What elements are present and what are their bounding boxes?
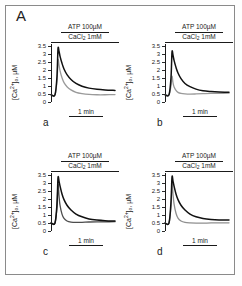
plot-area-a: 3.532.521.510.50: [51, 44, 115, 102]
stimulus-bars: ATP 100µM CaCl2 1mM: [55, 23, 115, 43]
y-tick-label: 1.5: [38, 204, 46, 210]
stimulus-bars: ATP 100µM CaCl2 1mM: [55, 152, 115, 172]
scale-bar: 1 min: [183, 237, 217, 246]
stimulus-atp: ATP 100µM: [169, 23, 229, 33]
y-tick-label: 3: [157, 180, 160, 186]
y-axis-label: [Ca2+]o, µM: [122, 117, 134, 173]
stimulus-cacl2: CaCl2 1mM: [169, 162, 229, 172]
panel-d: ATP 100µM CaCl2 1mM [Ca2+]o, µM 3.532.52…: [121, 143, 235, 272]
scale-bar-label: 1 min: [183, 108, 217, 116]
stimulus-atp: ATP 100µM: [169, 152, 229, 162]
scale-bar-line: [183, 116, 217, 117]
stimulus-cacl2-line: [165, 42, 233, 43]
stimulus-cacl2-label: CaCl2 1mM: [169, 162, 229, 171]
y-axis-label: [Ca2+]o, µM: [8, 117, 20, 173]
stimulus-atp-label: ATP 100µM: [55, 152, 115, 160]
y-tick-label: 1.5: [38, 75, 46, 81]
stimulus-atp-label: ATP 100µM: [169, 23, 229, 31]
stimulus-cacl2-line: [51, 171, 119, 172]
y-tick-label: 1.5: [152, 75, 160, 81]
plot-area-c: 3.532.521.510.50: [51, 173, 115, 231]
panel-b: ATP 100µM CaCl2 1mM [Ca2+]o, µM 3.532.52…: [121, 14, 235, 143]
y-tick-label: 3.5: [38, 43, 46, 49]
y-tick-label: 2.5: [38, 188, 46, 194]
y-tick-label: 2.5: [38, 59, 46, 65]
y-tick-label: 0: [43, 228, 46, 234]
stimulus-bars: ATP 100µM CaCl2 1mM: [169, 23, 229, 43]
y-tick-label: 3.5: [152, 172, 160, 178]
y-tick-label: 1: [43, 83, 46, 89]
y-tick-label: 2: [157, 67, 160, 73]
y-axis-label: [Ca2+]o, µM: [122, 0, 134, 44]
y-tick-label: 2: [157, 196, 160, 202]
plot-area-d: 3.532.521.510.50: [165, 173, 229, 231]
stimulus-atp-label: ATP 100µM: [55, 23, 115, 31]
y-tick-label: 3: [43, 180, 46, 186]
y-tick-label: 2.5: [152, 59, 160, 65]
y-tick-label: 0.5: [152, 91, 160, 97]
scale-bar: 1 min: [69, 237, 103, 246]
y-tick-label: 2: [43, 67, 46, 73]
trace-svg-d: [165, 173, 229, 231]
stimulus-atp-label: ATP 100µM: [169, 152, 229, 160]
y-tick-mark: [48, 102, 51, 103]
y-tick-label: 3.5: [38, 172, 46, 178]
stimulus-atp: ATP 100µM: [55, 23, 115, 33]
y-tick-label: 3.5: [152, 43, 160, 49]
scale-bar-line: [69, 245, 103, 246]
plot-area-b: 3.532.521.510.50: [165, 44, 229, 102]
scale-bar-label: 1 min: [69, 108, 103, 116]
trace-line: [165, 176, 229, 225]
figure-root: A ATP 100µM CaCl2 1mM [Ca2+]o, µM 3.532.…: [0, 0, 242, 286]
panel-label-b: b: [157, 118, 163, 128]
y-tick-mark: [162, 231, 165, 232]
y-tick-label: 3: [157, 51, 160, 57]
panel-a: ATP 100µM CaCl2 1mM [Ca2+]o, µM 3.532.52…: [7, 14, 121, 143]
y-tick-label: 1.5: [152, 204, 160, 210]
scale-bar: 1 min: [69, 108, 103, 117]
y-tick-label: 2: [43, 196, 46, 202]
stimulus-cacl2-label: CaCl2 1mM: [55, 33, 115, 42]
trace-svg-b: [165, 44, 229, 102]
y-axis-label: [Ca2+]o, µM: [8, 0, 20, 44]
scale-bar: 1 min: [183, 108, 217, 117]
trace-line: [51, 177, 115, 225]
stimulus-atp: ATP 100µM: [55, 152, 115, 162]
y-tick-label: 1: [157, 83, 160, 89]
panel-grid: ATP 100µM CaCl2 1mM [Ca2+]o, µM 3.532.52…: [7, 14, 235, 272]
y-tick-mark: [48, 231, 51, 232]
y-tick-label: 0.5: [38, 91, 46, 97]
stimulus-cacl2: CaCl2 1mM: [169, 33, 229, 43]
stimulus-cacl2: CaCl2 1mM: [55, 33, 115, 43]
y-tick-label: 0.5: [38, 220, 46, 226]
stimulus-cacl2-line: [51, 42, 119, 43]
y-tick-label: 0: [43, 99, 46, 105]
panel-label-c: c: [43, 247, 48, 257]
y-tick-label: 0.5: [152, 220, 160, 226]
y-tick-label: 0: [157, 228, 160, 234]
y-tick-label: 1: [157, 212, 160, 218]
y-tick-label: 2.5: [152, 188, 160, 194]
panel-label-d: d: [157, 247, 163, 257]
y-tick-label: 3: [43, 51, 46, 57]
stimulus-cacl2-label: CaCl2 1mM: [55, 162, 115, 171]
scale-bar-label: 1 min: [69, 237, 103, 245]
scale-bar-line: [183, 245, 217, 246]
y-tick-label: 1: [43, 212, 46, 218]
scale-bar-line: [69, 116, 103, 117]
stimulus-cacl2: CaCl2 1mM: [55, 162, 115, 172]
trace-svg-a: [51, 44, 115, 102]
scale-bar-label: 1 min: [183, 237, 217, 245]
stimulus-cacl2-line: [165, 171, 233, 172]
stimulus-bars: ATP 100µM CaCl2 1mM: [169, 152, 229, 172]
y-tick-label: 0: [157, 99, 160, 105]
trace-svg-c: [51, 173, 115, 231]
panel-label-a: a: [43, 118, 49, 128]
stimulus-cacl2-label: CaCl2 1mM: [169, 33, 229, 42]
panel-c: ATP 100µM CaCl2 1mM [Ca2+]o, µM 3.532.52…: [7, 143, 121, 272]
y-tick-mark: [162, 102, 165, 103]
